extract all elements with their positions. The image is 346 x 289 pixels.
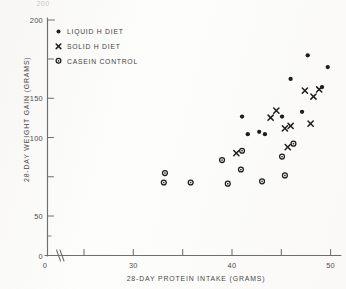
- data-point-s1-6: [308, 121, 313, 126]
- data-point-s2-6: [225, 181, 230, 186]
- x-tick-label-50: 50: [326, 261, 335, 270]
- x-tick-label-0: 0: [43, 261, 47, 270]
- legend-marker-cross-icon: [56, 44, 61, 49]
- data-point-s1-3: [282, 126, 287, 131]
- legend-marker-open-circle-icon: [56, 58, 61, 63]
- data-point-s1-8: [317, 87, 322, 92]
- x-tick-label-30: 30: [129, 261, 138, 270]
- legend-label-solid-h-diet: SOLID H DIET: [67, 43, 121, 50]
- data-point-s1-4: [288, 123, 293, 128]
- axes-group: [45, 18, 341, 256]
- scatter-plot-figure: 200 0 50 100 150 200: [0, 0, 346, 289]
- data-point-s2-5: [238, 167, 243, 172]
- y-tick-label-200: 200: [30, 16, 43, 25]
- legend-label-casein-control: CASEIN CONTROL: [67, 58, 138, 65]
- clipped-top-label: 200: [36, 0, 49, 8]
- plot-canvas: 200 0 50 100 150 200: [0, 0, 346, 289]
- y-tick-label-100: 100: [30, 134, 43, 143]
- y-tick-label-50: 50: [34, 212, 43, 221]
- legend: LIQUID H DIET SOLID H DIET CASEIN CONTRO…: [56, 28, 138, 64]
- data-point-s2-10: [282, 173, 287, 178]
- series-solid-h-diet: [234, 87, 322, 156]
- x-tick-label-40: 40: [228, 261, 237, 270]
- y-tick-labels: 0 50 100 150 200: [30, 16, 43, 261]
- legend-label-liquid-h-diet: LIQUID H DIET: [67, 28, 124, 36]
- x-axis-title: 28-DAY PROTEIN INTAKE (GRAMS): [127, 275, 266, 283]
- data-point-s0-2: [257, 130, 261, 134]
- data-point-s1-7: [311, 94, 316, 99]
- data-point-s0-9: [326, 65, 330, 69]
- data-point-s1-1: [268, 115, 273, 120]
- x-ticks-group: [84, 250, 331, 256]
- data-point-s2-0: [163, 171, 168, 176]
- data-point-s0-5: [288, 77, 292, 81]
- series-casein-control: [161, 141, 296, 186]
- data-point-s2-4: [240, 148, 245, 153]
- data-point-s1-5: [302, 88, 307, 93]
- legend-marker-filled-circle-icon: [57, 30, 61, 34]
- y-tick-label-0: 0: [39, 252, 43, 261]
- data-point-s0-1: [246, 132, 250, 136]
- data-point-s2-7: [280, 154, 285, 159]
- data-point-s0-3: [263, 132, 267, 136]
- data-point-s0-6: [300, 110, 304, 114]
- data-point-s2-3: [220, 158, 225, 163]
- y-axis-title: 28-DAY WEIGHT GAIN (GRAMS): [23, 57, 31, 182]
- data-point-s1-2: [274, 108, 279, 113]
- data-point-s1-9: [285, 145, 290, 150]
- data-point-s0-4: [280, 114, 284, 118]
- data-point-s2-9: [260, 179, 265, 184]
- y-tick-label-150: 150: [30, 94, 43, 103]
- data-point-s0-7: [306, 53, 310, 57]
- data-point-s1-0: [234, 150, 239, 155]
- data-point-s2-8: [291, 141, 296, 146]
- data-point-s2-1: [161, 180, 166, 185]
- data-point-s2-2: [188, 180, 193, 185]
- y-ticks-group: [48, 20, 55, 256]
- x-tick-labels: 0 30 40 50: [43, 261, 335, 270]
- data-point-s0-0: [240, 114, 244, 118]
- data-points-layer: [161, 53, 330, 186]
